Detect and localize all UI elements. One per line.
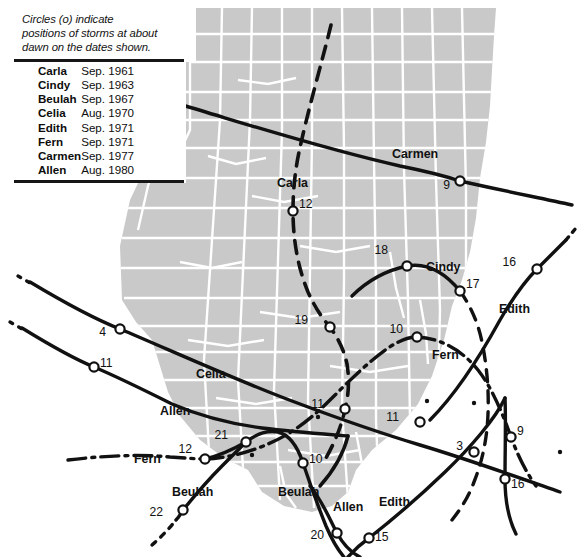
storm-position-circle (340, 404, 349, 413)
storm-position-circle (298, 458, 307, 467)
legend-storm-date: Sep. 1961 (81, 65, 134, 79)
legend-storm-date: Sep. 1967 (81, 93, 134, 107)
storm-day-label: 10 (389, 322, 403, 336)
hurricane-tracks-map: Circles (o) indicate positions of storms… (0, 0, 584, 557)
edith-label-bottom: Edith (379, 495, 410, 509)
storm-day-label: 3 (456, 439, 463, 453)
legend-storm-name: Carla (38, 65, 81, 79)
legend-storm-name: Fern (38, 135, 81, 149)
legend-storm-name: Celia (38, 107, 81, 121)
legend-storm-name: Edith (38, 121, 81, 135)
storm-day-label: 11 (311, 397, 324, 411)
legend-storm-date: Aug. 1980 (81, 163, 134, 177)
storm-position-circle (455, 286, 464, 295)
track-edith-south (505, 398, 516, 534)
legend-row: FernSep. 1971 (38, 135, 134, 149)
storm-position-circle (288, 206, 297, 215)
legend-row: CarlaSep. 1961 (38, 65, 134, 79)
storm-position-circle (178, 505, 187, 514)
legend-storm-name: Cindy (38, 79, 81, 93)
storm-position-circle (241, 437, 250, 446)
legend-panel: Circles (o) indicate positions of storms… (12, 6, 186, 183)
storm-day-label: 22 (149, 505, 163, 519)
storm-day-label: 9 (443, 178, 450, 192)
legend-storm-name: Beulah (38, 93, 81, 107)
track-cindy-tail (452, 291, 488, 520)
legend-row: AllenAug. 1980 (38, 163, 134, 177)
legend-row: CarmenSep. 1977 (38, 149, 134, 163)
storm-day-label: 21 (214, 428, 228, 442)
legend-row: CindySep. 1963 (38, 79, 134, 93)
storm-day-label: 9 (517, 424, 524, 438)
fern-label-left: Fern (134, 452, 161, 466)
legend-note-line-3: dawn on the dates shown. (22, 40, 180, 54)
legend-storm-table: CarlaSep. 1961CindySep. 1963BeulahSep. 1… (38, 65, 134, 178)
legend-storm-name: Carmen (38, 149, 81, 163)
allen-label-bottom: Allen (333, 500, 363, 514)
storm-day-label: 16 (502, 255, 516, 269)
storm-day-label: 16 (511, 477, 525, 491)
track-edith-tail (566, 228, 576, 240)
legend-row: EdithSep. 1971 (38, 121, 134, 135)
carmen-label: Carmen (392, 147, 438, 161)
cindy-label: Cindy (426, 260, 460, 274)
beulah-label-left: Beulah (172, 485, 213, 499)
legend-storm-name: Allen (38, 163, 81, 177)
storm-day-label: 10 (309, 452, 323, 466)
storm-position-circle (402, 261, 411, 270)
legend-note-line-1: Circles (o) indicate (22, 12, 180, 26)
storm-position-circle (532, 264, 541, 273)
celia-label: Celia (196, 367, 226, 381)
storm-day-label: 20 (310, 528, 324, 542)
fern-label-right: Fern (432, 348, 459, 362)
storm-position-circle (89, 362, 98, 371)
legend-storm-date: Sep. 1963 (81, 79, 134, 93)
legend-top-rule (14, 59, 184, 62)
storm-day-label: 4 (99, 325, 106, 339)
track-beulah-tail (152, 520, 176, 545)
storm-position-circle (415, 417, 424, 426)
storm-position-circle (364, 533, 373, 542)
allen-label-left: Allen (160, 404, 190, 418)
storm-position-circle (200, 454, 209, 463)
beulah-label-right: Beulah (278, 485, 319, 499)
track-allen-west-tail (10, 322, 24, 330)
storm-day-label: 11 (100, 356, 113, 370)
legend-storm-date: Sep. 1977 (81, 149, 134, 163)
carla-label: Carla (277, 176, 308, 190)
track-celia-tail (18, 276, 32, 284)
legend-storm-date: Aug. 1970 (81, 107, 134, 121)
legend-bottom-rule (14, 180, 184, 183)
storm-position-circle (455, 176, 464, 185)
storm-day-label: 12 (178, 442, 192, 456)
legend-row: CeliaAug. 1970 (38, 107, 134, 121)
legend-storm-date: Sep. 1971 (81, 135, 134, 149)
storm-position-circle (115, 324, 124, 333)
storm-day-label: 15 (375, 530, 389, 544)
legend-row: BeulahSep. 1967 (38, 93, 134, 107)
legend-storm-date: Sep. 1971 (81, 121, 134, 135)
storm-position-circle (506, 432, 515, 441)
storm-position-circle (500, 474, 509, 483)
storm-position-circle (412, 332, 421, 341)
legend-note: Circles (o) indicate positions of storms… (12, 10, 186, 58)
storm-day-label: 17 (466, 277, 480, 291)
edith-label-right: Edith (499, 302, 530, 316)
storm-day-label: 11 (386, 410, 399, 424)
storm-day-label: 19 (294, 313, 308, 327)
storm-day-label: 12 (299, 197, 313, 211)
storm-day-label: 18 (374, 243, 388, 257)
storm-position-circle (469, 447, 478, 456)
storm-position-circle (332, 528, 341, 537)
legend-note-line-2: positions of storms at about (22, 26, 180, 40)
storm-position-circle (325, 322, 334, 331)
